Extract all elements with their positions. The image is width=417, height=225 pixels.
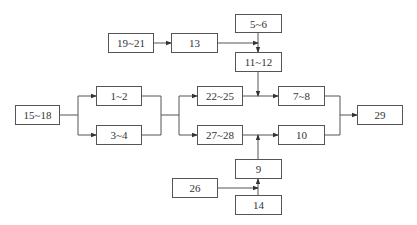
node-label: 29	[375, 109, 386, 121]
node-29: 29	[357, 105, 403, 125]
node-10: 10	[278, 125, 325, 145]
node-label: 1~2	[111, 90, 128, 102]
node-19-21: 19~21	[108, 33, 154, 53]
node-9: 9	[235, 159, 282, 179]
node-label: 11~12	[245, 56, 273, 68]
node-label: 10	[296, 129, 307, 141]
node-13: 13	[171, 33, 218, 53]
node-1-2: 1~2	[96, 86, 142, 106]
node-label: 22~25	[206, 90, 234, 102]
node-label: 5~6	[250, 18, 267, 30]
node-5-6: 5~6	[235, 14, 282, 33]
node-label: 27~28	[206, 129, 234, 141]
node-label: 9	[256, 163, 262, 175]
node-label: 13	[189, 37, 200, 49]
node-label: 19~21	[117, 37, 145, 49]
node-27-28: 27~28	[197, 125, 243, 145]
node-7-8: 7~8	[278, 86, 325, 106]
node-26: 26	[172, 178, 218, 198]
node-14: 14	[235, 195, 282, 215]
node-label: 26	[190, 182, 201, 194]
node-11-12: 11~12	[235, 52, 282, 72]
node-22-25: 22~25	[197, 86, 243, 106]
node-label: 14	[253, 199, 264, 211]
node-label: 3~4	[111, 129, 128, 141]
node-label: 15~18	[24, 109, 52, 121]
node-3-4: 3~4	[96, 125, 142, 145]
node-15-18: 15~18	[15, 105, 60, 125]
node-label: 7~8	[293, 90, 310, 102]
